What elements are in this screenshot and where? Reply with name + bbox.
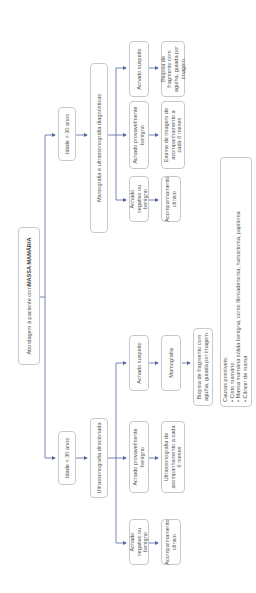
biopsy-box-left: Biopsia de fragmento com agulha, guiada … — [193, 328, 213, 406]
biopsy-box-right: Biopsia de fragmento com agulha, guiada … — [161, 41, 185, 97]
root-prefix: Abordagem à paciente com — [26, 286, 33, 354]
ultrasound-directed-box: Ultrassonografia direcionada — [90, 418, 108, 498]
root-box: Abordagem à paciente com MASSA MAMÁRIA — [18, 227, 40, 365]
flowchart: Abordagem à paciente com MASSA MAMÁRIA I… — [0, 0, 256, 593]
age-under-30-box: Idade < 30 anos — [58, 431, 76, 485]
imaging-followup-box: Exame de imagem de acompanhamento a cada… — [161, 101, 185, 169]
finding-negative-left: Achado negativo ou benigno — [129, 519, 149, 565]
causes-title: Causas possíveis: — [222, 357, 229, 402]
finding-probably-benign-right: Achado provavelmente benigno — [129, 101, 149, 169]
cause-item: • Cisto mamário — [229, 362, 236, 402]
finding-suspicious-left: Achado suspeito — [129, 335, 149, 391]
age-over-30-box: Idade > 30 anos — [58, 107, 76, 161]
clinical-followup-right: Acompanhamento clínico — [161, 176, 181, 222]
finding-probably-benign-left: Achado provavelmente benigno — [129, 421, 149, 493]
possible-causes-box: Causas possíveis: • Cisto mamário • Mass… — [220, 157, 252, 407]
ultrasound-followup-box: Ultrassonografia de acompanhamento a cad… — [161, 421, 185, 493]
finding-suspicious-right: Achado suspeito — [129, 41, 149, 97]
mammography-box: Mamografia — [161, 335, 181, 391]
root-emphasis: MASSA MAMÁRIA — [26, 238, 33, 287]
cause-item: • Massa mamária sólida benigna, como fib… — [235, 211, 242, 402]
clinical-followup-left: Acompanhamento clínico — [161, 519, 181, 565]
cause-item: • Câncer de mama — [242, 356, 249, 402]
finding-negative-right: Achado negativo ou benigno — [129, 176, 149, 222]
mammo-ultrasound-box: Mamografia e ultrassonografia diagnóstic… — [90, 63, 108, 233]
